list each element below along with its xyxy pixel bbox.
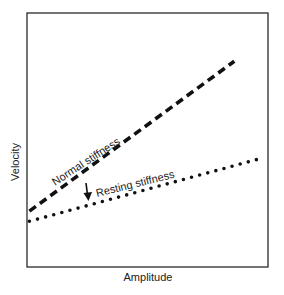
arrow-head-icon (84, 192, 93, 201)
y-axis-label: Velocity (9, 143, 21, 181)
normal-stiffness-label: Normal stiffness (50, 135, 123, 188)
shift-arrow (84, 183, 93, 201)
x-axis-label: Amplitude (124, 271, 173, 283)
chart: Normal stiffness Resting stiffness Veloc… (0, 0, 284, 295)
plot-frame (27, 13, 268, 267)
